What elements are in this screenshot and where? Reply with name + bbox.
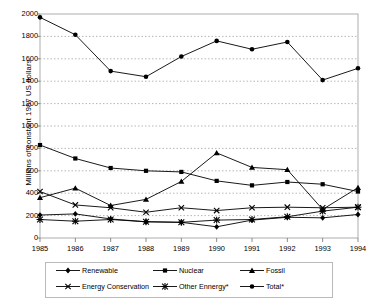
- data-point-marker: [356, 189, 360, 193]
- series-line: [40, 145, 358, 191]
- legend-label: Energy Conservation: [82, 282, 149, 291]
- data-point-marker: [250, 183, 254, 187]
- data-point-marker: [144, 169, 148, 173]
- data-point-marker: [320, 78, 325, 83]
- data-point-marker: [356, 66, 361, 71]
- line-chart: Millions of constant 1987 US dollars 020…: [0, 0, 380, 305]
- data-point-marker: [38, 15, 43, 20]
- legend: Renewable Nuclear Fossil Energy Conserva…: [45, 262, 333, 298]
- data-point-marker: [73, 156, 77, 160]
- series-energy-conservation: [37, 189, 360, 215]
- legend-item-energy-conservation[interactable]: Energy Conservation: [56, 281, 149, 292]
- data-point-marker: [250, 47, 255, 52]
- series-nuclear: [38, 143, 360, 194]
- data-point-marker: [214, 39, 219, 44]
- data-point-marker: [143, 218, 150, 225]
- series-other-ennergy: [37, 204, 362, 226]
- legend-label: Total*: [266, 282, 284, 291]
- data-point-marker: [321, 182, 325, 186]
- data-point-marker: [355, 204, 362, 211]
- data-point-marker: [179, 170, 183, 174]
- data-point-marker: [179, 54, 184, 59]
- data-point-marker: [214, 224, 219, 230]
- data-point-marker: [213, 217, 220, 224]
- legend-label: Renewable: [82, 266, 118, 275]
- plot-area: [0, 0, 380, 305]
- legend-item-fossil[interactable]: Fossil: [240, 265, 285, 276]
- data-point-marker: [72, 185, 78, 190]
- data-point-marker: [319, 208, 326, 215]
- data-point-marker: [37, 216, 44, 223]
- data-point-marker: [285, 180, 289, 184]
- data-point-marker: [215, 179, 219, 183]
- legend-row: Energy Conservation Other Ennergy* Total…: [46, 281, 334, 297]
- legend-item-total[interactable]: Total*: [240, 281, 284, 292]
- data-point-marker: [355, 212, 360, 218]
- data-point-marker: [249, 216, 256, 223]
- legend-row: Renewable Nuclear Fossil: [46, 265, 334, 281]
- data-point-marker: [143, 196, 149, 201]
- data-point-marker: [73, 211, 78, 217]
- data-point-marker: [355, 185, 361, 190]
- legend-label: Fossil: [266, 266, 285, 275]
- energy-conservation-marker-icon: [56, 281, 80, 292]
- data-point-marker: [72, 218, 79, 225]
- other-energy-marker-icon: [153, 281, 177, 292]
- legend-label: Other Ennergy*: [179, 282, 229, 291]
- series-line: [40, 17, 358, 80]
- data-point-marker: [285, 40, 290, 45]
- data-point-marker: [109, 166, 113, 170]
- data-point-marker: [178, 219, 185, 226]
- data-point-marker: [284, 213, 291, 220]
- nuclear-marker-icon: [153, 265, 177, 276]
- data-point-marker: [38, 143, 42, 147]
- data-point-marker: [214, 150, 220, 155]
- data-point-marker: [108, 69, 113, 74]
- series-fossil: [37, 150, 361, 212]
- renewable-marker-icon: [56, 265, 80, 276]
- data-point-marker: [107, 216, 114, 223]
- legend-item-renewable[interactable]: Renewable: [56, 265, 118, 276]
- series-total: [38, 15, 361, 82]
- data-point-marker: [144, 74, 149, 79]
- fossil-marker-icon: [240, 265, 264, 276]
- legend-item-nuclear[interactable]: Nuclear: [153, 265, 204, 276]
- data-point-marker: [73, 32, 78, 37]
- total-marker-icon: [240, 281, 264, 292]
- legend-label: Nuclear: [179, 266, 204, 275]
- legend-item-other-energy[interactable]: Other Ennergy*: [153, 281, 229, 292]
